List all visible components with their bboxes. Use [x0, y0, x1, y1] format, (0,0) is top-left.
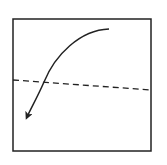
curved-arrow: [27, 29, 109, 117]
diagram-canvas: [0, 0, 167, 165]
diagram-svg: [0, 0, 167, 165]
dashed-line: [13, 80, 151, 90]
frame-box: [13, 19, 151, 151]
